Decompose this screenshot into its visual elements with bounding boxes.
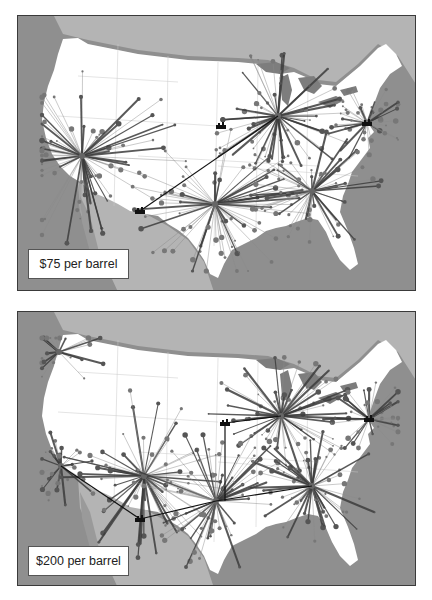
hub-texas: [212, 201, 218, 207]
hub-southeast: [309, 188, 315, 194]
legend-75: $75 per barrel: [28, 249, 129, 279]
map-panel-75: $75 per barrel: [17, 15, 416, 291]
map-panel-200: $200 per barrel: [17, 311, 416, 586]
map-200: [18, 312, 416, 586]
hub-west: [79, 153, 85, 159]
legend-label-75: $75 per barrel: [40, 257, 118, 271]
hub-northwest: [56, 349, 62, 355]
legend-label-200: $200 per barrel: [36, 554, 121, 568]
legend-200: $200 per barrel: [28, 546, 129, 576]
